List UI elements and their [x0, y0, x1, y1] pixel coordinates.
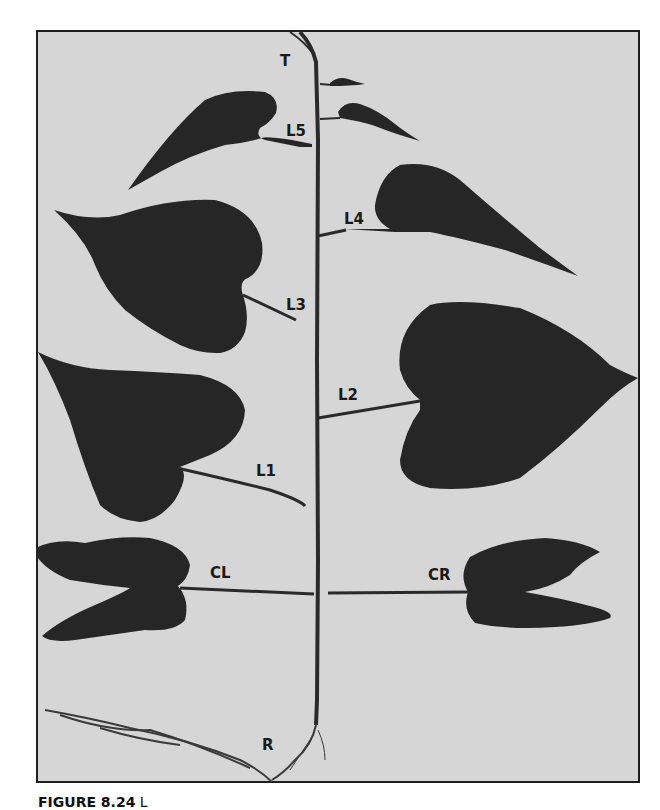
leaf-l3: [54, 200, 262, 353]
caption-text: L: [135, 794, 147, 810]
leaf-t-upper: [330, 78, 365, 86]
caption-label: FIGURE 8.24: [38, 794, 135, 810]
label-terminal: T: [280, 52, 290, 70]
label-cotyledon-right: CR: [428, 566, 451, 584]
figure-caption: FIGURE 8.24 L: [38, 794, 148, 810]
label-cotyledon-left: CL: [210, 564, 231, 582]
label-l1: L1: [256, 462, 276, 480]
leaf-l4: [345, 164, 578, 276]
leaf-l5: [128, 91, 312, 190]
cotyledon-right: [463, 538, 610, 628]
roots: [45, 710, 325, 782]
leaf-l1-petiole: [177, 468, 305, 506]
label-l5: L5: [286, 122, 306, 140]
label-l3: L3: [286, 296, 306, 314]
label-root: R: [262, 736, 274, 754]
cotyledon-left: [36, 537, 190, 641]
leaf-l2: [399, 302, 638, 489]
label-l4: L4: [344, 210, 364, 228]
label-l2: L2: [338, 386, 358, 404]
figure-frame: T L5 L4 L3 L2 L1 CL CR R: [36, 30, 640, 783]
leaf-t-lower: [338, 103, 420, 141]
leaf-l1: [38, 352, 245, 522]
